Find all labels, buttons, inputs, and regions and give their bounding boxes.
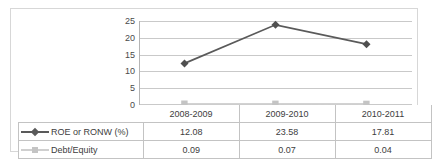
table-header-2009-2010: 2009-2010 [239,105,335,123]
cell-debt-equity-2008-2009: 0.09 [144,141,240,159]
table-header-2010-2011: 2010-2011 [335,105,431,123]
table-header-row: 2008-2009 2009-2010 2010-2011 [19,105,432,123]
y-axis-tick-labels: 25 20 15 10 5 0 [107,21,135,105]
series-layer [139,21,412,111]
y-tick-20: 20 [109,34,135,43]
legend-marker-debt-equity-icon [21,145,49,155]
y-tick-15: 15 [109,51,135,60]
cell-roe-2009-2010: 23.58 [239,123,335,141]
cell-debt-equity-2009-2010: 0.07 [239,141,335,159]
legend-label-debt-equity: Debt/Equity [51,145,98,155]
series-roe-line [185,25,367,64]
cell-debt-equity-2010-2011: 0.04 [335,141,431,159]
series-roe-point-1 [181,59,189,67]
legend-marker-roe-icon [21,127,49,137]
legend-item-debt-equity: Debt/Equity [19,141,144,159]
legend-item-roe: ROE or RONW (%) [19,123,144,141]
y-tick-25: 25 [109,17,135,26]
table-row: ROE or RONW (%) 12.08 23.58 17.81 [19,123,432,141]
table-header-2008-2009: 2008-2009 [144,105,240,123]
table-row: Debt/Equity 0.09 0.07 0.04 [19,141,432,159]
table-corner-cell [19,105,144,123]
series-roe [181,21,371,68]
cell-roe-2010-2011: 17.81 [335,123,431,141]
series-roe-point-3 [363,40,371,48]
cell-roe-2008-2009: 12.08 [144,123,240,141]
legend-label-roe: ROE or RONW (%) [51,127,129,137]
y-tick-10: 10 [109,67,135,76]
y-tick-5: 5 [109,84,135,93]
series-roe-point-2 [272,21,280,29]
chart-data-table: 2008-2009 2009-2010 2010-2011 ROE or RON… [18,105,432,159]
